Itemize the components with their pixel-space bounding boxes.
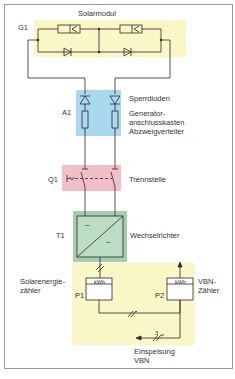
p1-label-line2: zähler	[20, 286, 40, 295]
p2-designator: P2	[155, 291, 164, 300]
solar-module-zone	[34, 20, 186, 57]
p1-designator: P1	[75, 291, 84, 300]
gak-label-line2: anschlusskasten	[129, 118, 184, 127]
disconnect-label: Trennstelle	[129, 175, 166, 184]
a1-designator: A1	[62, 108, 71, 117]
gak-label-line1: Generator-	[129, 109, 165, 118]
pv-system-schematic	[0, 0, 235, 379]
p2-label-line1: VBN-	[198, 277, 216, 286]
gak-label-line3: Abzweigverteiler	[129, 127, 184, 136]
p2-unit: kWh	[175, 278, 186, 287]
t1-designator: T1	[56, 231, 65, 240]
blocking-diodes-label: Sperrdioden	[129, 94, 170, 103]
q1-designator: Q1	[48, 175, 58, 184]
a1-zone	[76, 90, 121, 136]
p2-label-line2: Zähler	[198, 286, 219, 295]
feed-label-line1: Einspeisung	[134, 347, 175, 356]
phase-count: 3	[155, 329, 158, 338]
ac-symbol: ~	[106, 238, 111, 247]
inverter-icon	[77, 216, 123, 257]
dc-symbol: –	[85, 220, 89, 229]
meter-zone	[72, 263, 195, 345]
solar-module-label: Solarmodul	[78, 9, 116, 18]
p1-unit: kWh	[94, 278, 105, 287]
p1-label-line1: Solarenergie-	[20, 277, 65, 286]
inverter-label: Wechselrichter	[130, 231, 179, 240]
g1-designator: G1	[18, 23, 28, 32]
feed-label-line2: VBN	[134, 356, 149, 365]
